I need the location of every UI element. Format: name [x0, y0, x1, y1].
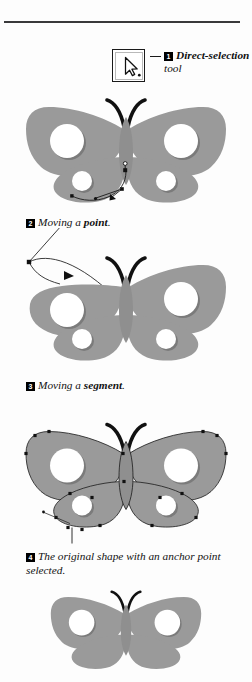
tool-callout-label: 1Direct-selection tool — [164, 49, 252, 76]
caption-3-tail: . — [122, 379, 125, 391]
header-divider — [4, 21, 240, 23]
caption-3-lead: Moving a — [38, 379, 84, 391]
figure-butterfly-moving-a-point — [0, 95, 252, 220]
figure-butterfly-plain-cropped — [0, 588, 252, 682]
caption-2-tail: . — [108, 216, 111, 228]
caption-badge-4: 4 — [26, 553, 35, 562]
figure-butterfly-original-anchors — [0, 418, 252, 546]
direct-selection-arrow-icon — [113, 50, 146, 83]
handle-endpoint — [42, 511, 45, 514]
caption-badge-3: 3 — [26, 382, 35, 391]
figure-butterfly-moving-a-segment — [0, 228, 252, 378]
caption-original-shape: 4The original shape with an anchor point… — [26, 550, 231, 578]
tool-callout-label-bold: Direct-selection — [176, 49, 249, 61]
caption-2-lead: Moving a — [38, 216, 84, 228]
caption-moving-a-segment: 3Moving a segment. — [26, 379, 226, 393]
illustration-page: 1Direct-selection tool — [0, 0, 252, 682]
tool-callout-label-rest: tool — [164, 62, 182, 74]
callout-badge-1: 1 — [164, 52, 173, 61]
caption-badge-2: 2 — [26, 219, 35, 228]
callout-leader-line — [150, 56, 161, 57]
direct-selection-tool-callout: 1Direct-selection tool — [112, 49, 250, 91]
butterfly-body — [119, 442, 133, 510]
caption-3-bold: segment — [84, 379, 122, 391]
tool-icon-box[interactable] — [112, 49, 145, 82]
caption-4-text: The original shape with an anchor point … — [26, 550, 221, 576]
caption-2-bold: point — [84, 216, 108, 228]
